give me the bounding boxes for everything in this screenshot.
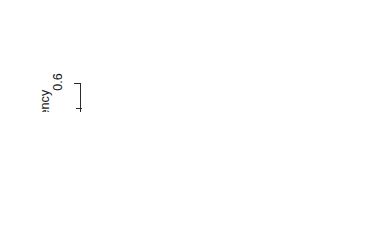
y-tick-label-2: 0.4	[50, 111, 66, 112]
bar-chart-figure: relative frequency 0.0 0.2 0.4 0.6 $0 $1…	[0, 60, 366, 112]
y-tick-mark-0.6	[74, 83, 80, 84]
y-tick-label-3: 0.6	[50, 62, 66, 102]
y-tick-mark-0.5	[76, 108, 82, 109]
